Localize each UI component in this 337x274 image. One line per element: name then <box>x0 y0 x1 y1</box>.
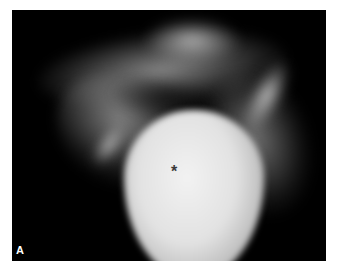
tissue-region <box>142 18 242 63</box>
asterisk-marker: * <box>171 164 177 180</box>
chamber-region <box>124 110 264 261</box>
image-panel <box>12 10 326 261</box>
panel-label: A <box>16 244 24 256</box>
